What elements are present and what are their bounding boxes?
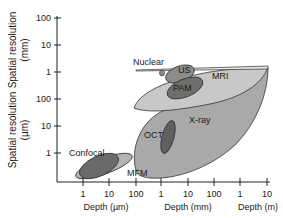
x-tick-label: 10 — [262, 189, 272, 199]
y-label-upper-line2: (mm) — [19, 38, 30, 61]
y-axis-label-upper: Spatial resolution (mm) — [7, 12, 30, 89]
y-axis-label-lower: Spatial resolution (µm) — [7, 92, 30, 169]
x-label-m: Depth (m) — [238, 202, 278, 212]
x-label-mm: Depth (mm) — [164, 202, 212, 212]
x-tick-label: 100 — [206, 189, 221, 199]
y-label-lower-line1: Spatial resolution — [7, 92, 18, 169]
x-tick-label: 1 — [158, 189, 163, 199]
y-tick-label: 10 — [41, 40, 51, 50]
x-tick-label: 1 — [80, 189, 85, 199]
x-tick-label: 10 — [104, 189, 114, 199]
label-us: US — [178, 65, 191, 75]
x-tick-labels: 1 10 100 1 10 100 1 10 — [80, 189, 272, 199]
label-nuclear: Nuclear — [133, 57, 164, 67]
label-mri: MRI — [212, 71, 229, 81]
nuclear-dot — [160, 70, 165, 76]
y-tick-label: 10 — [41, 121, 51, 131]
y-label-upper-line1: Spatial resolution — [7, 12, 18, 89]
y-tick-labels: 100 10 1 100 10 1 — [36, 13, 51, 158]
x-axis-labels: Depth (µm) Depth (mm) Depth (m) — [83, 202, 278, 212]
label-pam: PAM — [173, 83, 192, 93]
y-label-lower-line2: (µm) — [19, 120, 30, 141]
label-oct: OCT — [144, 130, 164, 140]
y-tick-label: 1 — [46, 67, 51, 77]
x-tick-label: 1 — [237, 189, 242, 199]
y-tick-label: 1 — [46, 148, 51, 158]
label-confocal: Confocal — [69, 148, 105, 158]
y-tick-label: 100 — [36, 13, 51, 23]
x-tick-label: 10 — [183, 189, 193, 199]
x-tick-label: 100 — [128, 189, 143, 199]
x-label-um: Depth (µm) — [83, 202, 128, 212]
y-tick-label: 100 — [36, 94, 51, 104]
label-xray: X-ray — [189, 115, 211, 125]
imaging-modalities-diagram: Spatial resolution (mm) Spatial resoluti… — [0, 0, 283, 218]
label-mfm: MFM — [127, 168, 148, 178]
